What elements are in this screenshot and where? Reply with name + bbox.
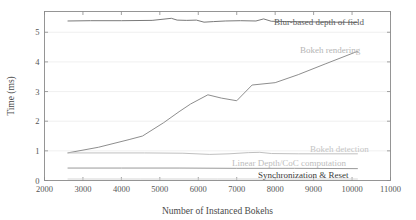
y-tick-label: 5 — [35, 27, 39, 37]
series-label-3: Linear Depth/CoC computation — [232, 158, 346, 168]
series-label-4: Synchronization & Reset — [258, 170, 349, 180]
series-line-1 — [68, 51, 358, 153]
y-tick-label: 4 — [35, 57, 40, 67]
chart-figure: 0123452000300040005000600070008000900010… — [0, 0, 416, 220]
x-tick-label: 3000 — [74, 184, 91, 194]
x-tick-label: 10000 — [341, 184, 362, 194]
x-tick-label: 4000 — [113, 184, 130, 194]
x-tick-label: 11000 — [380, 184, 401, 194]
plot-frame — [45, 12, 391, 181]
x-tick-label: 7000 — [228, 184, 245, 194]
y-tick-label: 2 — [35, 116, 39, 126]
y-tick-label: 3 — [35, 87, 39, 97]
x-tick-label: 2000 — [36, 184, 53, 194]
series-label-0: Blur-based depth of field — [274, 17, 365, 27]
x-tick-label: 6000 — [190, 184, 207, 194]
x-axis-title: Number of Instanced Bokehs — [162, 206, 273, 216]
x-tick-label: 5000 — [151, 184, 168, 194]
chart-canvas: 0123452000300040005000600070008000900010… — [0, 0, 416, 220]
series-label-1: Bokeh rendering — [300, 45, 361, 55]
y-axis-title: Time (ms) — [6, 76, 17, 116]
series-label-2: Bokeh detection — [310, 144, 369, 154]
series-line-3 — [68, 168, 358, 169]
y-tick-label: 1 — [35, 146, 39, 156]
x-tick-label: 9000 — [305, 184, 322, 194]
x-tick-label: 8000 — [267, 184, 284, 194]
